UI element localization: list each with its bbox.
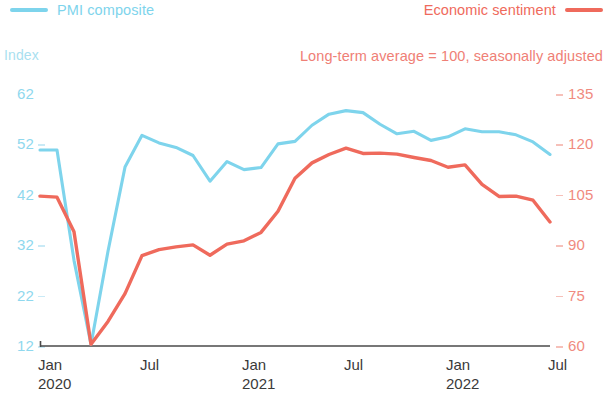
y-axis-right-tick-dash (556, 296, 563, 298)
y-axis-left-tick-32: 32 (4, 237, 34, 252)
series-line-pmi-composite (40, 111, 550, 345)
line-swatch-icon-red (565, 8, 603, 12)
y-axis-left-tick-dash (38, 245, 45, 247)
legend-item-pmi-composite: PMI composite (10, 2, 154, 18)
y-axis-left-tick-dash (38, 346, 45, 348)
line-swatch-icon-blue (10, 8, 48, 12)
y-axis-right-tick-dash (556, 195, 563, 197)
x-axis-tick-label: Jan2021 (242, 356, 275, 394)
y-axis-left-tick-12: 12 (4, 338, 34, 353)
x-axis-tick-label: Jul (548, 356, 567, 375)
y-axis-right-tick-60: 60 (568, 338, 608, 353)
y-axis-right-tick-dash (556, 346, 563, 348)
chart-container: PMI composite Economic sentiment Index L… (0, 0, 609, 401)
x-axis-tick-label: Jul (140, 356, 159, 375)
y-axis-right-tick-105: 105 (568, 187, 608, 202)
y-axis-left-tick-52: 52 (4, 136, 34, 151)
y-axis-left-tick-22: 22 (4, 288, 34, 303)
x-axis-tick-label: Jul (344, 356, 363, 375)
chart-subtitle: Long-term average = 100, seasonally adju… (300, 48, 603, 64)
y-axis-right-tick-dash (556, 144, 563, 146)
y-axis-right-tick-90: 90 (568, 237, 608, 252)
y-axis-right-tick-120: 120 (568, 136, 608, 151)
series-line-economic-sentiment (40, 148, 550, 344)
y-axis-right-tick-dash (556, 94, 563, 96)
y-axis-left-tick-dash (38, 296, 45, 298)
y-axis-right-tick-75: 75 (568, 288, 608, 303)
y-axis-left-tick-62: 62 (4, 86, 34, 101)
y-axis-left-tick-dash (38, 144, 45, 146)
y-axis-right-tick-dash (556, 245, 563, 247)
y-axis-left-tick-42: 42 (4, 187, 34, 202)
y-axis-left-tick-dash (38, 195, 45, 197)
x-axis-tick-label: Jan2020 (38, 356, 71, 394)
y-axis-title-left: Index (4, 47, 39, 63)
legend-label-economic-sentiment: Economic sentiment (424, 2, 556, 18)
chart-legend: PMI composite Economic sentiment (0, 0, 609, 28)
y-axis-right-tick-135: 135 (568, 86, 608, 101)
x-axis-tick-label: Jan2022 (446, 356, 479, 394)
legend-label-pmi-composite: PMI composite (57, 2, 154, 18)
legend-item-economic-sentiment: Economic sentiment (424, 2, 603, 18)
